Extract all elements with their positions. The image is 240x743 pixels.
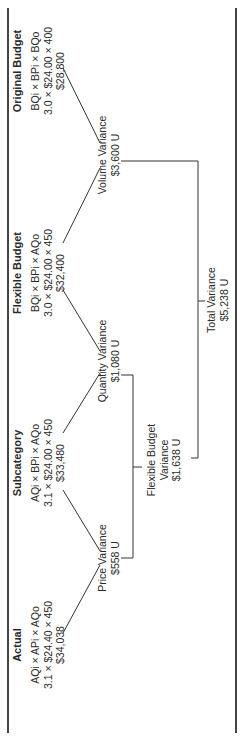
column-title: Actual — [11, 601, 24, 689]
column-title: Original Budget — [11, 27, 24, 115]
column-total: $32,400 — [54, 229, 67, 317]
column-subcategory: Subcategory AQi × BPi × AQo 3.1 × $24.00… — [11, 419, 67, 507]
column-total: $34,038 — [54, 601, 67, 689]
variance-label: Quantity Variance — [96, 320, 109, 403]
variance-label: Volume Variance — [96, 116, 109, 195]
column-values: 3.1 × $24.40 × 450 — [42, 601, 55, 689]
column-total: $33,480 — [54, 419, 67, 507]
variance-label: Price Variance — [96, 524, 109, 592]
volume-variance: Volume Variance $3,600 U — [96, 116, 121, 195]
column-total: $28,800 — [54, 27, 67, 115]
variance-label-line1: Flexible Budget — [145, 424, 158, 496]
price-variance: Price Variance $558 U — [96, 524, 121, 592]
column-original-budget: Original Budget BQi × BPi × BQo 3.0 × $2… — [11, 27, 67, 115]
column-title: Flexible Budget — [11, 229, 24, 317]
column-actual: Actual AQi × APi × AQo 3.1 × $24.40 × 45… — [11, 601, 67, 689]
variance-label: Total Variance — [205, 267, 218, 333]
column-values: 3.0 × $24.00 × 450 — [42, 229, 55, 317]
variance-diagram: Actual AQi × APi × AQo 3.1 × $24.40 × 45… — [0, 0, 240, 743]
column-title: Subcategory — [11, 419, 24, 507]
column-formula: AQi × APi × AQo — [29, 601, 42, 689]
column-values: 3.1 × $24.00 × 450 — [42, 419, 55, 507]
variance-amount: $1,080 U — [109, 320, 122, 403]
column-formula: BQi × BPi × AQo — [29, 229, 42, 317]
column-formula: AQi × BPi × AQo — [29, 419, 42, 507]
variance-amount: $5,238 U — [218, 267, 231, 333]
variance-amount: $3,600 U — [109, 116, 122, 195]
quantity-variance: Quantity Variance $1,080 U — [96, 320, 121, 403]
column-formula: BQi × BPi × BQo — [29, 27, 42, 115]
column-flexible-budget: Flexible Budget BQi × BPi × AQo 3.0 × $2… — [11, 229, 67, 317]
variance-amount: $558 U — [109, 524, 122, 592]
flexible-budget-variance: Flexible Budget Variance $1,638 U — [145, 424, 183, 496]
variance-label-line2: Variance — [158, 424, 171, 496]
column-values: 3.0 × $24.00 × 400 — [42, 27, 55, 115]
variance-amount: $1,638 U — [170, 424, 183, 496]
total-variance: Total Variance $5,238 U — [205, 267, 230, 333]
